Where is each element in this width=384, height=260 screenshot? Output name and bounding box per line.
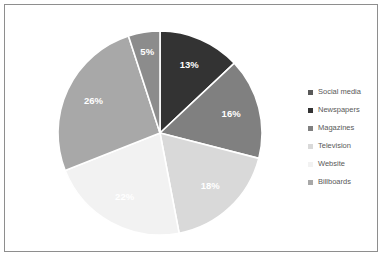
legend-square-marker-icon [308,162,313,167]
pie-slice-label: 26% [84,95,104,106]
pie-chart[interactable]: 13%16%18%22%26%5% [55,28,265,238]
legend-item-label: Website [318,160,345,168]
legend-item-label: Newspapers [318,106,360,114]
legend-item[interactable]: Website [308,155,384,173]
pie-slice-label: 5% [140,46,154,57]
legend-item[interactable]: Billboards [308,173,384,191]
chart-legend: Social mediaNewspapersMagazinesTelevisio… [308,83,384,191]
legend-square-marker-icon [308,126,313,131]
legend-item-label: Magazines [318,124,354,132]
legend-square-marker-icon [308,144,313,149]
legend-item[interactable]: Social media [308,83,384,101]
legend-item-label: Television [318,142,351,150]
legend-item-label: Billboards [318,178,351,186]
pie-slice-label: 13% [180,59,200,70]
legend-item[interactable]: Television [308,137,384,155]
pie-slice-label: 22% [115,191,135,202]
pie-slice-label: 18% [201,180,221,191]
pie-chart-plot-area: 13%16%18%22%26%5% Social mediaNewspapers… [5,5,384,260]
pie-slice-group [58,31,262,235]
legend-square-marker-icon [308,180,313,185]
legend-square-marker-icon [308,90,313,95]
legend-square-marker-icon [308,108,313,113]
chart-frame: 13%16%18%22%26%5% Social mediaNewspapers… [4,4,378,252]
pie-slice-label: 16% [222,108,242,119]
legend-item-label: Social media [318,88,361,96]
legend-item[interactable]: Magazines [308,119,384,137]
legend-item[interactable]: Newspapers [308,101,384,119]
